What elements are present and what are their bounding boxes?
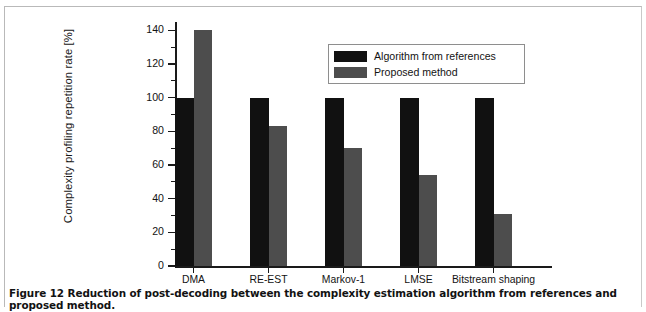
x-tick-mark [418, 267, 419, 273]
x-tick-mark [268, 267, 269, 273]
bar [475, 98, 494, 266]
legend-label: Proposed method [374, 66, 458, 78]
legend-swatch-icon [334, 51, 367, 62]
bar [325, 98, 344, 266]
legend-label: Algorithm from references [374, 50, 496, 62]
chart-plot-area: Complexity profiling repetition rate [%]… [0, 0, 646, 282]
x-tick-mark [193, 267, 194, 273]
bar [344, 148, 363, 266]
bar [400, 98, 419, 266]
chart-legend: Algorithm from references Proposed metho… [328, 44, 525, 84]
bar [194, 30, 213, 266]
bar [494, 214, 513, 266]
bar [419, 175, 438, 266]
bar [175, 98, 194, 266]
legend-item-algorithm-from-references: Algorithm from references [334, 48, 520, 64]
bar [269, 126, 288, 266]
x-category-label: Markov-1 [322, 274, 365, 285]
x-axis-line [175, 266, 552, 268]
legend-swatch-icon [334, 67, 367, 78]
x-category-label: Bitstream shaping [452, 274, 535, 285]
bar [250, 98, 269, 266]
x-category-label: LMSE [404, 274, 432, 285]
x-tick-mark [343, 267, 344, 273]
bars-layer [0, 0, 646, 266]
x-category-label: DMA [182, 274, 205, 285]
x-tick-mark [493, 267, 494, 273]
legend-item-proposed-method: Proposed method [334, 64, 520, 80]
figure-caption: Figure 12 Reduction of post-decoding bet… [9, 288, 635, 312]
x-category-label: RE-EST [249, 274, 287, 285]
